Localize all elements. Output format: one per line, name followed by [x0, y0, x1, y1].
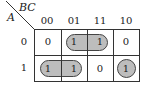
cell-r0-c01: 1: [61, 29, 87, 55]
column-variable-label: BC: [19, 1, 36, 14]
column-header-01: 01: [61, 15, 87, 26]
cell-r1-c11: 0: [87, 56, 113, 82]
cell-r1-c10: 1: [113, 56, 139, 82]
cell-r0-c00: 0: [35, 29, 61, 55]
row-variable-label: A: [7, 11, 15, 24]
column-header-10: 10: [113, 15, 139, 26]
cell-r1-c00: 1: [35, 56, 61, 82]
cell-r0-c11: 1: [87, 29, 113, 55]
cell-r0-c10: 0: [113, 29, 139, 55]
column-header-00: 00: [34, 15, 60, 26]
cell-r1-c01: 1: [61, 56, 87, 82]
row-header-1: 1: [18, 62, 30, 73]
column-header-11: 11: [87, 15, 113, 26]
row-header-0: 0: [18, 36, 30, 47]
